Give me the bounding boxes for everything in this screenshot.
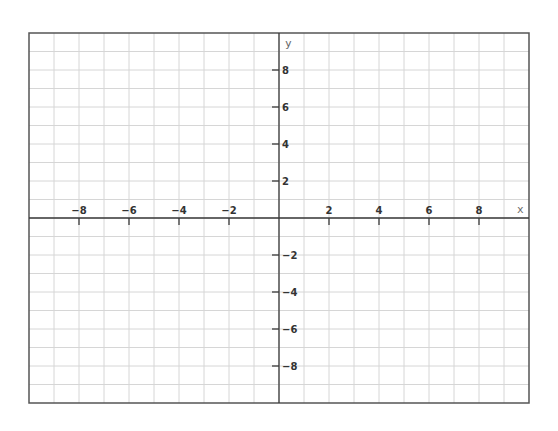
x-tick-label: −8 <box>71 205 86 216</box>
x-axis-label: x <box>517 203 524 216</box>
y-tick-label: −6 <box>282 324 297 335</box>
x-tick-label: 6 <box>426 205 433 216</box>
y-tick-label: −2 <box>282 250 297 261</box>
y-tick-label: −8 <box>282 361 297 372</box>
x-tick-label: −6 <box>121 205 136 216</box>
coordinate-plane: −8−6−4−224688642−2−4−6−8 x y <box>0 0 558 431</box>
x-tick-label: 2 <box>326 205 333 216</box>
y-tick-label: 4 <box>282 139 289 150</box>
x-tick-label: 4 <box>376 205 383 216</box>
y-tick-label: 6 <box>282 102 289 113</box>
y-tick-label: 2 <box>282 176 289 187</box>
y-axis-label: y <box>285 37 292 50</box>
x-tick-label: 8 <box>476 205 483 216</box>
x-tick-label: −4 <box>171 205 186 216</box>
y-tick-label: −4 <box>282 287 297 298</box>
x-tick-label: −2 <box>221 205 236 216</box>
y-tick-label: 8 <box>282 65 289 76</box>
